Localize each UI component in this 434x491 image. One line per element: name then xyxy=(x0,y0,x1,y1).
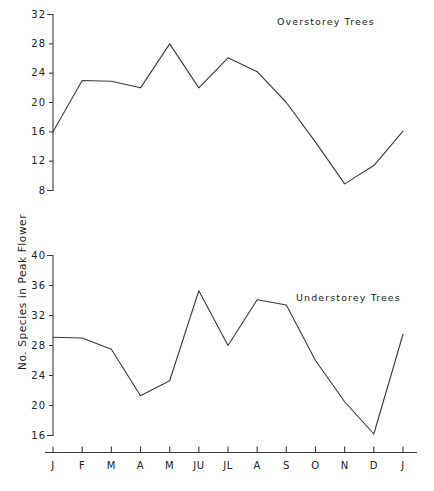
x-tick-label: JU xyxy=(184,460,214,471)
y-tick-label: 36 xyxy=(16,280,46,291)
figure-container: No. Species in Peak Flower Overstorey Tr… xyxy=(0,0,434,491)
understorey-data-line xyxy=(53,291,403,434)
x-tick-label: M xyxy=(155,460,185,471)
y-tick-label: 16 xyxy=(16,126,46,137)
overstorey-y-axis xyxy=(47,15,53,191)
x-axis xyxy=(45,447,417,453)
x-tick-label: J xyxy=(388,460,418,471)
chart-svg xyxy=(0,0,434,491)
y-tick-label: 24 xyxy=(16,370,46,381)
x-tick-label: N xyxy=(330,460,360,471)
y-tick-label: 20 xyxy=(16,400,46,411)
y-tick-label: 40 xyxy=(16,250,46,261)
y-tick-label: 32 xyxy=(16,9,46,20)
x-tick-label: A xyxy=(242,460,272,471)
x-tick-label: JL xyxy=(213,460,243,471)
x-tick-label: J xyxy=(38,460,68,471)
y-tick-label: 28 xyxy=(16,340,46,351)
x-tick-label: F xyxy=(67,460,97,471)
y-tick-label: 8 xyxy=(16,185,46,196)
x-tick-label: S xyxy=(271,460,301,471)
overstorey-data-line xyxy=(53,44,403,184)
x-tick-label: D xyxy=(359,460,389,471)
x-tick-label: M xyxy=(96,460,126,471)
x-tick-label: A xyxy=(126,460,156,471)
y-tick-label: 12 xyxy=(16,155,46,166)
understorey-panel-title: Understorey Trees xyxy=(296,292,401,303)
understorey-y-axis xyxy=(47,256,53,436)
y-tick-label: 24 xyxy=(16,67,46,78)
overstorey-panel-title: Overstorey Trees xyxy=(277,16,375,27)
series-polyline xyxy=(53,44,403,184)
y-tick-label: 16 xyxy=(16,430,46,441)
x-tick-label: O xyxy=(301,460,331,471)
series-polyline xyxy=(53,291,403,434)
y-tick-label: 28 xyxy=(16,38,46,49)
y-tick-label: 20 xyxy=(16,97,46,108)
y-tick-label: 32 xyxy=(16,310,46,321)
